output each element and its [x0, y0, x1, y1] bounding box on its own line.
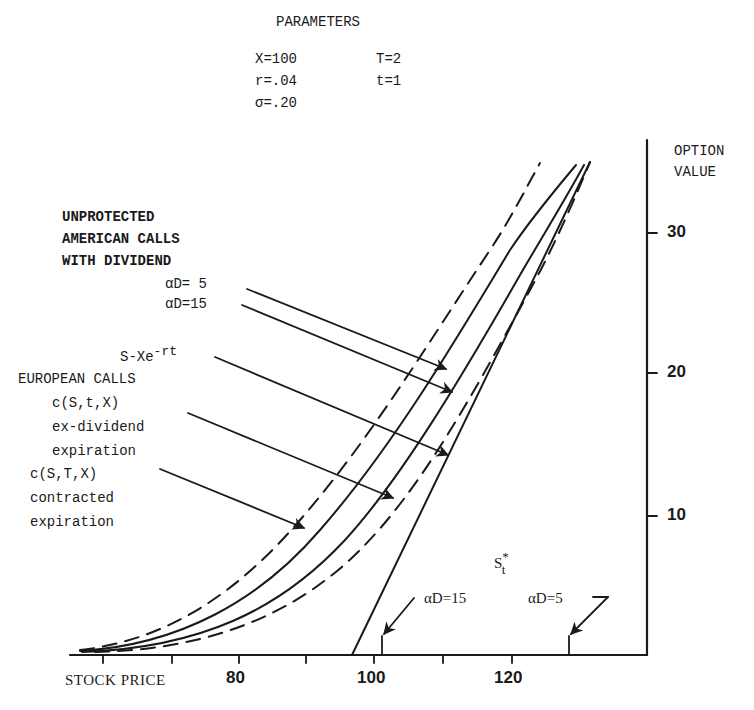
- curve-c-small-dashed: [95, 162, 590, 652]
- arrow-c-small: [188, 413, 393, 498]
- curve-intrinsic-sxe: [352, 162, 590, 655]
- arrow-ad15-marker: [384, 598, 414, 634]
- arrow-ad5: [247, 289, 446, 369]
- curve-american-ad15: [82, 165, 584, 652]
- arrow-ad15: [242, 305, 452, 392]
- curve-american-ad5: [80, 165, 576, 651]
- y-ticks: [647, 233, 657, 516]
- arrow-c-big: [160, 469, 304, 528]
- chart-canvas: [0, 0, 754, 710]
- x-ticks: [103, 655, 512, 663]
